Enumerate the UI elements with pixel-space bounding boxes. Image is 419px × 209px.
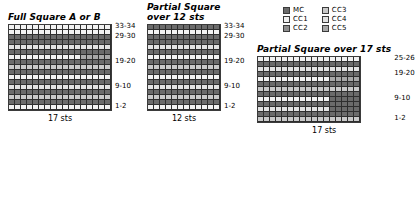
color-legend: MCCC3CC1CC4CC2CC5	[283, 6, 347, 32]
chart-full-square: Full Square A or B 33-3429-3019-209-101-…	[8, 12, 112, 123]
chart-partial-square-12: Partial Square over 12 sts 33-3429-3019-…	[147, 2, 221, 123]
legend-swatch-icon	[283, 7, 290, 14]
legend-item: CC5	[322, 24, 347, 32]
row-label: 1-2	[224, 103, 235, 110]
row-label: 9-10	[394, 95, 410, 102]
legend-label: CC4	[332, 15, 347, 23]
row-label: 9-10	[224, 83, 240, 90]
chart-title: Partial Square over 17 sts	[257, 44, 391, 54]
stitch-count-label: 17 sts	[8, 114, 112, 123]
legend-label: CC3	[332, 6, 347, 14]
stitch-cell	[105, 105, 111, 110]
chart-grid-wrapper: 25-2619-209-101-2	[257, 56, 391, 123]
row-label: 29-30	[224, 33, 244, 40]
legend-swatch-icon	[283, 16, 290, 23]
chart-grid-wrapper: 33-3429-3019-209-101-2	[147, 24, 221, 111]
legend-swatch-icon	[322, 7, 329, 14]
stitch-count-label: 17 sts	[257, 126, 391, 135]
row-label: 19-20	[394, 70, 414, 77]
row-label: 9-10	[115, 83, 131, 90]
chart-title: Partial Square over 12 sts	[147, 2, 221, 22]
row-label: 33-34	[115, 23, 135, 30]
stitch-cell	[354, 117, 360, 122]
legend-swatch-icon	[322, 25, 329, 32]
legend-label: CC2	[293, 24, 308, 32]
row-label: 1-2	[394, 115, 405, 122]
row-label: 33-34	[224, 23, 244, 30]
legend-label: MC	[293, 6, 304, 14]
legend-item: CC2	[283, 24, 308, 32]
chart-partial-square-17: Partial Square over 17 sts 25-2619-209-1…	[257, 44, 391, 135]
row-label: 1-2	[115, 103, 126, 110]
stitch-grid	[257, 56, 361, 123]
chart-grid-wrapper: 33-3429-3019-209-101-2	[8, 24, 112, 111]
row-label-column: 25-2619-209-101-2	[391, 56, 419, 123]
row-label-column: 33-3429-3019-209-101-2	[112, 24, 142, 111]
legend-item: CC1	[283, 15, 308, 23]
row-label: 19-20	[224, 58, 244, 65]
legend-item: MC	[283, 6, 308, 14]
legend-swatch-icon	[322, 16, 329, 23]
chart-title: Full Square A or B	[8, 12, 112, 22]
legend-swatch-icon	[283, 25, 290, 32]
legend-item: CC3	[322, 6, 347, 14]
legend-label: CC1	[293, 15, 308, 23]
stitch-grid	[147, 24, 221, 111]
stitch-count-label: 12 sts	[147, 114, 221, 123]
stitch-grid	[8, 24, 112, 111]
row-label-column: 33-3429-3019-209-101-2	[221, 24, 251, 111]
legend-item: CC4	[322, 15, 347, 23]
legend-label: CC5	[332, 24, 347, 32]
stitch-cell	[214, 105, 220, 110]
row-label: 25-26	[394, 55, 414, 62]
row-label: 19-20	[115, 58, 135, 65]
row-label: 29-30	[115, 33, 135, 40]
